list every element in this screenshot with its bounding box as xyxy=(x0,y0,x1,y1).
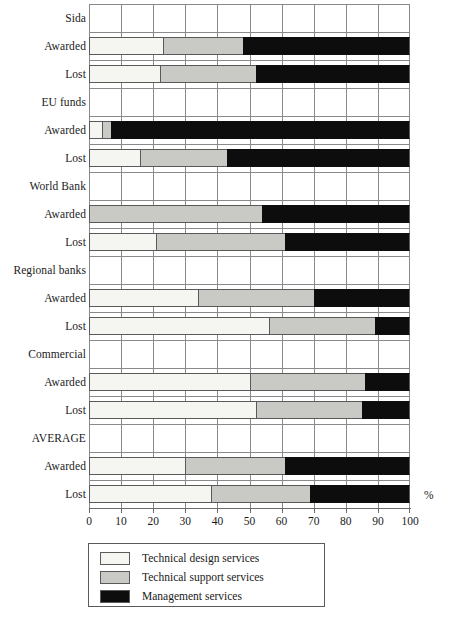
group-label: Commercial xyxy=(0,340,86,368)
legend-swatch xyxy=(100,552,130,565)
x-tick-label: 30 xyxy=(180,513,192,529)
segment-technical-design xyxy=(89,373,250,391)
x-tick-label: 80 xyxy=(340,513,352,529)
x-tick-label: 90 xyxy=(372,513,384,529)
segment-management xyxy=(362,401,410,419)
group-band xyxy=(89,88,410,116)
stacked-bar xyxy=(89,457,410,475)
segment-technical-support xyxy=(102,121,112,139)
bar-row: Lost xyxy=(0,480,453,508)
bar-band xyxy=(89,32,410,60)
x-tick-label: 70 xyxy=(308,513,320,529)
legend-item: Technical support services xyxy=(100,569,264,585)
x-tick-label: 10 xyxy=(115,513,127,529)
segment-technical-support xyxy=(163,37,243,55)
group-label: Sida xyxy=(0,4,86,32)
bar-row: Awarded xyxy=(0,200,453,228)
bar-row: Lost xyxy=(0,228,453,256)
stacked-bar xyxy=(89,401,410,419)
segment-technical-support xyxy=(160,65,256,83)
group-label: World Bank xyxy=(0,172,86,200)
gridlines xyxy=(89,172,410,200)
chart-rows: SidaAwardedLostEU fundsAwardedLostWorld … xyxy=(0,4,453,508)
bar-band xyxy=(89,368,410,396)
segment-technical-design xyxy=(89,149,140,167)
x-axis-unit-label: % xyxy=(424,489,434,501)
chart-legend: Technical design servicesTechnical suppo… xyxy=(88,543,325,607)
x-tick-label: 20 xyxy=(147,513,159,529)
group-header-row: Sida xyxy=(0,4,453,32)
segment-management xyxy=(314,289,410,307)
bar-row: Awarded xyxy=(0,116,453,144)
segment-technical-design xyxy=(89,401,256,419)
bar-band xyxy=(89,144,410,172)
stacked-bar xyxy=(89,485,410,503)
segment-technical-support xyxy=(256,401,362,419)
legend-item: Management services xyxy=(100,588,242,604)
gridlines xyxy=(89,340,410,368)
bar-row-label: Awarded xyxy=(0,116,86,144)
bar-row-label: Awarded xyxy=(0,32,86,60)
bar-row: Lost xyxy=(0,144,453,172)
group-header-row: World Bank xyxy=(0,172,453,200)
bar-row: Awarded xyxy=(0,284,453,312)
gridlines xyxy=(89,88,410,116)
bar-row: Awarded xyxy=(0,368,453,396)
bar-row-label: Awarded xyxy=(0,368,86,396)
bar-band xyxy=(89,312,410,340)
segment-management xyxy=(285,457,410,475)
group-label: EU funds xyxy=(0,88,86,116)
segment-management xyxy=(262,205,410,223)
bar-row: Awarded xyxy=(0,32,453,60)
group-band xyxy=(89,4,410,32)
group-band xyxy=(89,256,410,284)
x-tick-label: 0 xyxy=(86,513,92,529)
stacked-bar-chart: SidaAwardedLostEU fundsAwardedLostWorld … xyxy=(0,0,453,624)
stacked-bar xyxy=(89,121,410,139)
segment-technical-support xyxy=(140,149,227,167)
bar-row-label: Lost xyxy=(0,480,86,508)
bar-band xyxy=(89,480,410,508)
bar-band xyxy=(89,60,410,88)
bar-row-label: Lost xyxy=(0,396,86,424)
stacked-bar xyxy=(89,233,410,251)
legend-label: Management services xyxy=(142,590,242,602)
group-band xyxy=(89,172,410,200)
bar-band xyxy=(89,396,410,424)
group-band xyxy=(89,424,410,452)
plot-area: SidaAwardedLostEU fundsAwardedLostWorld … xyxy=(0,0,453,512)
bar-band xyxy=(89,452,410,480)
segment-technical-design xyxy=(89,317,269,335)
gridlines xyxy=(89,424,410,452)
group-header-row: Commercial xyxy=(0,340,453,368)
legend-label: Technical design services xyxy=(142,552,259,564)
stacked-bar xyxy=(89,205,410,223)
segment-technical-design xyxy=(89,37,163,55)
x-tick-label: 60 xyxy=(276,513,288,529)
segment-technical-design xyxy=(89,289,198,307)
segment-technical-support xyxy=(89,205,262,223)
bar-band xyxy=(89,116,410,144)
stacked-bar xyxy=(89,373,410,391)
segment-technical-design xyxy=(89,233,156,251)
segment-technical-design xyxy=(89,457,185,475)
group-header-row: AVERAGE xyxy=(0,424,453,452)
x-tick-label: 100 xyxy=(401,513,418,529)
segment-technical-support xyxy=(185,457,285,475)
bar-band xyxy=(89,228,410,256)
legend-swatch xyxy=(100,571,130,584)
stacked-bar xyxy=(89,65,410,83)
bar-row-label: Lost xyxy=(0,228,86,256)
gridlines xyxy=(89,4,410,32)
segment-management xyxy=(111,121,410,139)
segment-technical-design xyxy=(89,121,102,139)
gridlines xyxy=(89,256,410,284)
bar-band xyxy=(89,284,410,312)
stacked-bar xyxy=(89,37,410,55)
x-tick-label: 40 xyxy=(212,513,224,529)
group-header-row: Regional banks xyxy=(0,256,453,284)
group-label: AVERAGE xyxy=(0,424,86,452)
bar-row-label: Lost xyxy=(0,312,86,340)
x-axis-tick-labels: 0102030405060708090100 xyxy=(0,513,453,531)
segment-management xyxy=(256,65,410,83)
